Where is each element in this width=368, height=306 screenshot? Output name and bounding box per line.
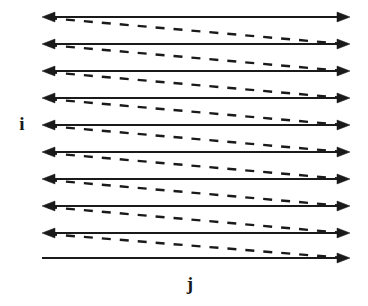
dashed-dependence-line-7 bbox=[48, 207, 344, 233]
row-5-left-arrowhead bbox=[42, 147, 55, 157]
row-1-left-arrowhead bbox=[42, 39, 55, 49]
row-8-left-arrowhead bbox=[42, 228, 55, 238]
figure-canvas: i j bbox=[0, 0, 368, 306]
row-3-left-arrowhead bbox=[42, 93, 55, 103]
row-0-right-arrowhead bbox=[337, 12, 350, 22]
row-7-left-arrowhead bbox=[42, 201, 55, 211]
dependence-diagram bbox=[0, 0, 368, 306]
axis-label-i: i bbox=[13, 114, 31, 133]
row-8-right-arrowhead bbox=[337, 228, 350, 238]
dashed-dependence-line-5 bbox=[48, 153, 344, 179]
dashed-dependence-line-4 bbox=[48, 126, 344, 152]
dashed-dependence-lines bbox=[48, 18, 344, 258]
row-6-right-arrowhead bbox=[337, 174, 350, 184]
row-2-right-arrowhead bbox=[337, 66, 350, 76]
dashed-dependence-line-3 bbox=[48, 99, 344, 125]
dashed-dependence-line-8 bbox=[48, 234, 344, 258]
row-5-right-arrowhead bbox=[337, 147, 350, 157]
row-1-right-arrowhead bbox=[337, 39, 350, 49]
dashed-dependence-line-1 bbox=[48, 45, 344, 71]
row-9-right-arrowhead bbox=[337, 253, 350, 263]
row-0-left-arrowhead bbox=[42, 12, 55, 22]
axis-label-j: j bbox=[180, 274, 200, 293]
row-2-left-arrowhead bbox=[42, 66, 55, 76]
dashed-dependence-line-6 bbox=[48, 180, 344, 206]
row-3-right-arrowhead bbox=[337, 93, 350, 103]
dashed-dependence-line-2 bbox=[48, 72, 344, 98]
row-4-right-arrowhead bbox=[337, 120, 350, 130]
row-4-left-arrowhead bbox=[42, 120, 55, 130]
dashed-dependence-line-0 bbox=[48, 18, 344, 44]
row-6-left-arrowhead bbox=[42, 174, 55, 184]
row-7-right-arrowhead bbox=[337, 201, 350, 211]
